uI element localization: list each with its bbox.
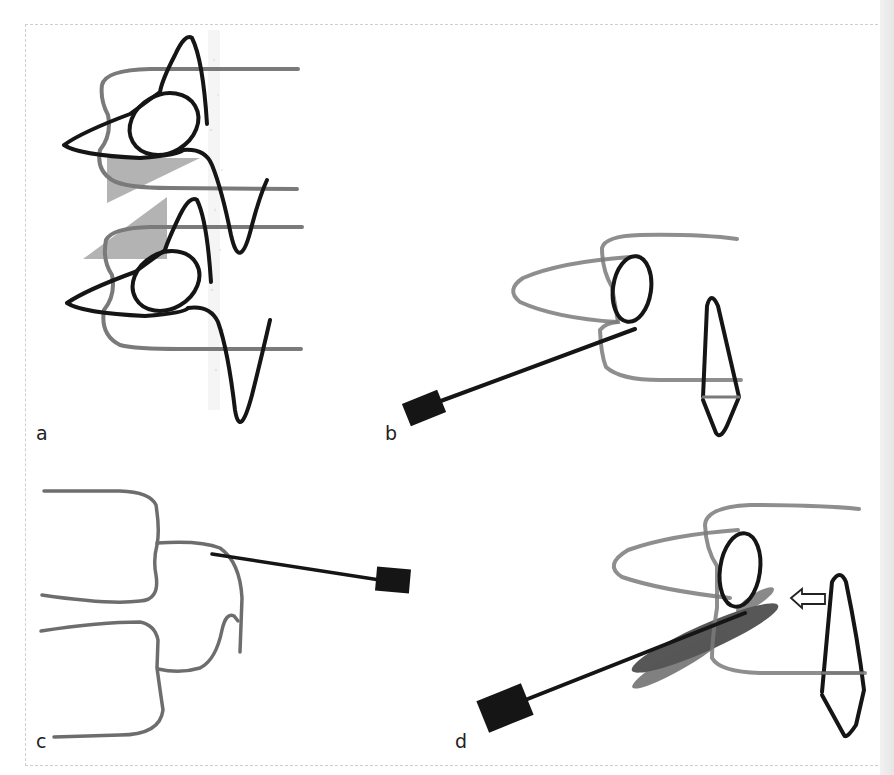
- ring-b: [609, 254, 656, 325]
- panel-label-b: b: [385, 424, 397, 443]
- wedge-upper: [107, 158, 200, 203]
- panel-a-drawing: [64, 30, 302, 422]
- panel-label-c: c: [36, 732, 46, 751]
- panel-c-drawing: [41, 491, 242, 737]
- panel-label-a: a: [36, 424, 48, 443]
- panel-label-d: d: [455, 732, 467, 751]
- tooth-c-lower: [41, 622, 163, 737]
- gingiva-c-lower: [158, 615, 238, 671]
- blade-d: [822, 575, 864, 736]
- tooth-c-upper: [42, 491, 158, 602]
- blade-b: [703, 298, 739, 435]
- probe-tip-b: [402, 390, 446, 426]
- dental-diagram: [0, 0, 894, 775]
- stipple-band: [208, 30, 224, 410]
- panel-d-drawing: [476, 505, 865, 736]
- smudge: [627, 583, 784, 695]
- probe-shaft-d: [510, 613, 745, 706]
- ring-a-upper: [118, 81, 209, 167]
- probe-tip-c: [375, 567, 411, 594]
- gingiva-c-upper: [157, 542, 242, 652]
- panel-b-drawing: [402, 235, 741, 435]
- arrow-left-icon: [791, 589, 825, 608]
- probe-tip-d: [476, 683, 533, 733]
